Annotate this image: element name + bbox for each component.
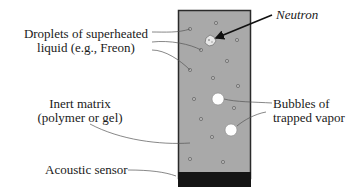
bubbles-label: Bubbles of trapped vapor bbox=[273, 97, 345, 125]
droplets-label: Droplets of superheated liquid (e.g., Fr… bbox=[16, 27, 156, 55]
acoustic-sensor bbox=[178, 172, 251, 187]
bubbles-label-line2: trapped vapor bbox=[273, 111, 345, 125]
vapor-bubble bbox=[212, 93, 224, 105]
neutron-label: Neutron bbox=[276, 8, 318, 22]
matrix-label-line2: (polymer or gel) bbox=[30, 111, 130, 125]
droplets-label-line1: Droplets of superheated bbox=[16, 27, 156, 41]
sensor-label: Acoustic sensor bbox=[45, 163, 128, 177]
sensor-label-text: Acoustic sensor bbox=[45, 162, 128, 177]
bubbles-label-line1: Bubbles of bbox=[273, 97, 345, 111]
droplets-label-line2: liquid (e.g., Freon) bbox=[16, 41, 156, 55]
matrix-label-line1: Inert matrix bbox=[30, 97, 130, 111]
matrix-label: Inert matrix (polymer or gel) bbox=[30, 97, 130, 125]
vapor-bubble bbox=[225, 124, 237, 136]
neutron-label-text: Neutron bbox=[276, 7, 318, 22]
